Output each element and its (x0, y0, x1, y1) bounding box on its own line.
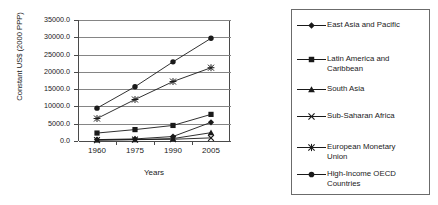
x-axis-tick-label: 2005 (191, 146, 231, 155)
y-axis-tick-label: 35000.0 (14, 16, 70, 23)
x-axis-title: Years (78, 168, 230, 177)
legend-item-label: High-Income OECD Countries (326, 169, 396, 188)
x-axis-tick-label: 1990 (153, 146, 193, 155)
x-axis-tick-mark (192, 141, 193, 145)
y-axis-tick-label: 0.0 (14, 137, 70, 144)
x-axis-tick-mark (116, 141, 117, 145)
x-axis-tick-label: 1975 (115, 146, 155, 155)
x-axis-tick-mark (154, 141, 155, 145)
legend-item[interactable]: Latin America and Caribbean (297, 54, 427, 73)
line-chart-figure: Constant US$ (2000 PPP) 0.05000.010000.0… (0, 0, 282, 205)
asterisk-marker-icon (297, 142, 326, 153)
series-european-monetary-union (94, 64, 215, 122)
legend-item-label: East Asia and Pacific (326, 20, 400, 30)
y-axis-tick-label: 15000.0 (14, 85, 70, 92)
gridline (79, 141, 231, 142)
legend-item-label: Sub-Saharan Africa (326, 111, 395, 121)
y-axis-tick-label: 10000.0 (14, 102, 70, 109)
circle-marker-icon (297, 169, 326, 180)
y-axis-tick-label: 5000.0 (14, 120, 70, 127)
legend-item-label: European Monetary Union (326, 142, 395, 161)
legend-item-label: Latin America and Caribbean (326, 54, 389, 73)
chart-legend: East Asia and PacificLatin America and C… (291, 9, 430, 195)
y-axis-tick-mark (74, 141, 78, 142)
data-series-layer (78, 20, 230, 141)
legend-item-label: South Asia (326, 84, 364, 94)
chart-screenshot: Constant US$ (2000 PPP) 0.05000.010000.0… (0, 0, 438, 205)
x-axis-tick-label: 1960 (77, 146, 117, 155)
square-marker-icon (297, 54, 326, 65)
diamond-marker-icon (297, 20, 326, 31)
legend-item[interactable]: Sub-Saharan Africa (297, 111, 427, 122)
legend-item[interactable]: High-Income OECD Countries (297, 169, 427, 188)
legend-item[interactable]: East Asia and Pacific (297, 20, 427, 31)
x-marker-icon (297, 111, 326, 122)
y-axis-tick-label: 20000.0 (14, 68, 70, 75)
legend-item[interactable]: European Monetary Union (297, 142, 427, 161)
series-latin-america-and-caribbean (94, 112, 213, 136)
legend-item[interactable]: South Asia (297, 84, 427, 95)
triangle-marker-icon (297, 84, 326, 95)
y-axis-tick-label: 25000.0 (14, 51, 70, 58)
y-axis-tick-label: 30000.0 (14, 33, 70, 40)
